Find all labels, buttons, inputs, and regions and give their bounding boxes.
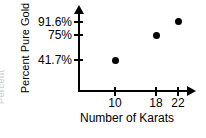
gold-purity-scatter-chart: Percent Percent Pure Gold 91.6% 75% 41.7… — [0, 0, 206, 138]
data-point — [153, 32, 160, 39]
y-axis-tick-2 — [74, 34, 83, 36]
y-axis-tick-3 — [74, 21, 83, 23]
x-axis-line — [78, 90, 188, 92]
x-axis-tick-1 — [114, 87, 116, 96]
edge-text-artifact: Percent — [0, 14, 8, 104]
y-axis-tick-label-2: 75% — [12, 29, 72, 41]
y-axis-tick-label-1: 41.7% — [12, 54, 72, 66]
y-axis-tick-1 — [74, 59, 83, 61]
y-axis-tick-label-3: 91.6% — [12, 16, 72, 28]
y-axis-arrowhead-icon — [74, 5, 84, 14]
data-point — [175, 18, 182, 25]
x-axis-arrowhead-icon — [187, 86, 196, 96]
x-axis-tick-2 — [155, 87, 157, 96]
x-axis-tick-3 — [177, 87, 179, 96]
x-axis-tick-label-1: 10 — [100, 97, 130, 109]
x-axis-tick-label-3: 22 — [163, 97, 193, 109]
y-axis-line — [78, 13, 80, 92]
x-axis-title: Number of Karats — [48, 112, 206, 125]
data-point — [112, 57, 119, 64]
